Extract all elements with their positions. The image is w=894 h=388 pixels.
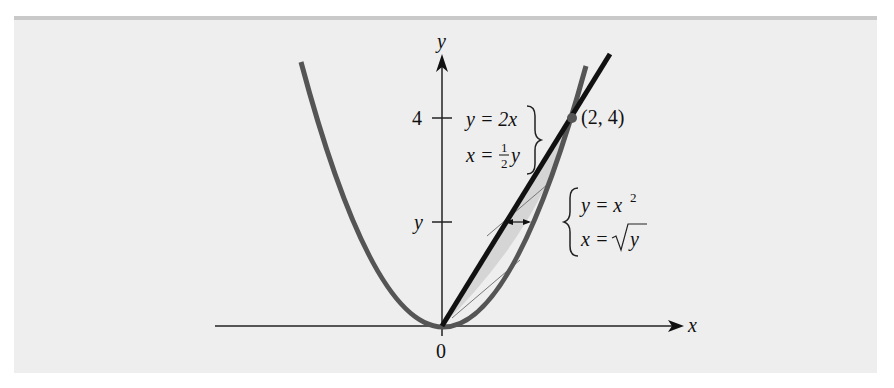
line-eq-2-var: y [509,144,520,167]
origin-label: 0 [436,340,446,362]
x-axis-label: x [687,314,697,336]
right-brace-icon [527,106,541,174]
line-eq-2-frac-den: 2 [501,156,508,171]
intersection-label: (2, 4) [581,106,624,129]
y-tick-label-4: 4 [412,107,422,129]
line-eq-1: y = 2x [464,108,517,131]
y-axis-label: y [435,30,446,53]
line-eq-2-frac-num: 1 [501,140,508,155]
line-y-2x [442,54,610,326]
parabola-eq-1-exp: 2 [630,190,637,205]
line-eq-2: x = [465,144,493,166]
parabola-eq-2-var: y [628,228,639,251]
intersection-point [567,113,577,123]
graph: x y 4 y 0 (2, 4) y = 2x x = 1 2 y y = x … [0,0,894,388]
left-brace-icon [564,188,578,256]
parabola-eq-2: x = [580,228,608,250]
parabola-curve [301,62,586,327]
parabola-eq-1: y = x [579,194,622,217]
y-tick-label-y: y [412,211,423,234]
